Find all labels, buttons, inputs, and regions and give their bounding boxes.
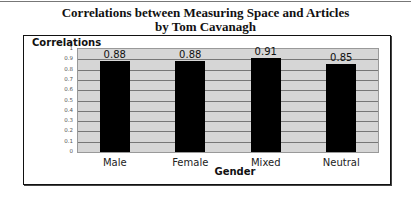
bar-mixed: [251, 58, 281, 152]
y-tick-label: 0.3: [53, 117, 73, 123]
bar-male: [100, 61, 130, 152]
y-tick-label: 0.4: [53, 107, 73, 113]
y-tick-label: 0.7: [53, 76, 73, 82]
bar-value-label: 0.91: [236, 46, 296, 57]
x-tick-label: Male: [80, 157, 150, 168]
y-tick-label: 0: [53, 148, 73, 154]
y-tick-label: 0.8: [53, 66, 73, 72]
bar-value-label: 0.88: [85, 49, 145, 60]
bar-neutral: [326, 64, 356, 152]
y-tick-label: 0.2: [53, 127, 73, 133]
chart-title-line1: Correlations between Measuring Space and…: [0, 6, 411, 20]
y-tick-label: 0.6: [53, 86, 73, 92]
y-tick-label: 1: [53, 45, 73, 51]
y-tick-label: 0.1: [53, 138, 73, 144]
top-rule: [0, 1, 411, 2]
bar-female: [175, 61, 205, 152]
x-tick-label: Neutral: [306, 157, 376, 168]
x-axis-label: Gender: [195, 166, 275, 177]
chart-title-line2: by Tom Cavanagh: [0, 20, 411, 34]
bar-value-label: 0.88: [160, 49, 220, 60]
bar-value-label: 0.85: [311, 52, 371, 63]
y-tick-label: 0.5: [53, 97, 73, 103]
y-tick-label: 0.9: [53, 55, 73, 61]
